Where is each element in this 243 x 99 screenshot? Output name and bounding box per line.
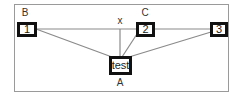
node-1[interactable]: 1: [17, 22, 37, 37]
node-3[interactable]: 3: [210, 22, 228, 37]
node-test[interactable]: test: [109, 56, 132, 75]
edge-2-test: [122, 34, 137, 57]
label-c: C: [141, 8, 148, 18]
node-2[interactable]: 2: [136, 22, 155, 37]
label-a: A: [117, 78, 124, 88]
label-b: B: [22, 8, 29, 18]
node-test-label: test: [112, 60, 130, 71]
label-x: x: [118, 16, 123, 26]
node-2-label: 2: [142, 24, 148, 35]
edge-1-test: [36, 29, 112, 57]
node-1-label: 1: [24, 24, 30, 35]
node-3-label: 3: [216, 24, 222, 35]
